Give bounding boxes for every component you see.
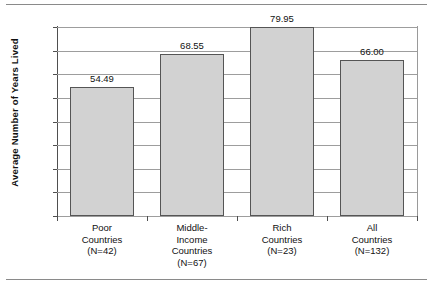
category-tick xyxy=(327,216,328,221)
gridline xyxy=(57,27,417,28)
category-label-line: Countries xyxy=(237,234,327,246)
bar[interactable] xyxy=(70,87,134,216)
bar[interactable] xyxy=(160,54,224,216)
category-label-line: Countries xyxy=(57,234,147,246)
category-label: Middle-IncomeCountries(N=67) xyxy=(147,222,237,284)
right-axis-line xyxy=(417,26,418,217)
y-axis-title: Average Number of Years Lived xyxy=(9,13,20,213)
bar-value-label: 68.55 xyxy=(152,40,232,51)
category-label: PoorCountries(N=42) xyxy=(57,222,147,284)
bar[interactable] xyxy=(340,60,404,216)
y-tick-mark xyxy=(53,145,57,146)
category-label: AllCountries(N=132) xyxy=(327,222,417,284)
category-label-line: (N=132) xyxy=(327,245,417,257)
y-tick-mark xyxy=(53,27,57,28)
top-rule xyxy=(6,4,427,5)
chart-figure: Average Number of Years Lived 80.0070.00… xyxy=(0,0,433,287)
y-tick-mark xyxy=(53,169,57,170)
bar-value-label: 79.95 xyxy=(242,13,322,24)
category-label-line: Poor xyxy=(57,222,147,234)
y-tick-mark xyxy=(53,192,57,193)
category-label-line: Countries xyxy=(327,234,417,246)
y-tick-mark xyxy=(53,98,57,99)
category-label-line: All xyxy=(327,222,417,234)
category-label-line: Middle- xyxy=(147,222,237,234)
category-tick xyxy=(417,216,418,221)
category-label-line: (N=42) xyxy=(57,245,147,257)
y-tick-mark xyxy=(53,51,57,52)
category-tick xyxy=(147,216,148,221)
y-tick-mark xyxy=(53,74,57,75)
bar-value-label: 54.49 xyxy=(62,73,142,84)
category-label-line: (N=23) xyxy=(237,245,327,257)
category-axis-labels: PoorCountries(N=42)Middle-IncomeCountrie… xyxy=(57,222,417,284)
category-label-line: (N=67) xyxy=(147,257,237,269)
category-tick xyxy=(237,216,238,221)
y-tick-mark xyxy=(53,122,57,123)
category-label-line: Rich xyxy=(237,222,327,234)
category-label-line: Countries xyxy=(147,245,237,257)
category-label: RichCountries(N=23) xyxy=(237,222,327,284)
bar[interactable] xyxy=(250,27,314,216)
category-tick xyxy=(57,216,58,221)
plot-area: 80.0070.0060.0050.0040.0030.0020.0010.00… xyxy=(57,27,417,216)
bar-value-label: 66.00 xyxy=(332,46,412,57)
category-label-line: Income xyxy=(147,234,237,246)
